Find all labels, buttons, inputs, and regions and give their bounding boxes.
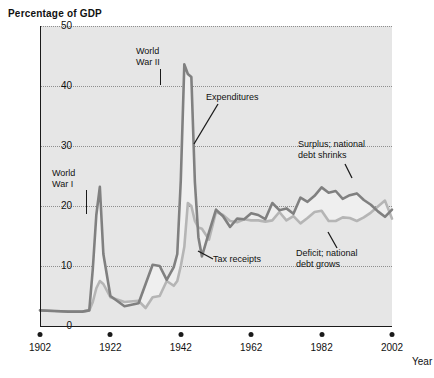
y-axis-line	[40, 26, 41, 326]
annotation-deficit: Deficit; national debt grows	[296, 248, 358, 269]
annotation-deficit-line2: debt grows	[296, 259, 358, 270]
annotation-surplus-line2: debt shrinks	[298, 150, 365, 161]
x-tick-dot-1902	[38, 332, 43, 337]
annotation-deficit-line1: Deficit; national	[296, 248, 358, 259]
annotation-expenditures: Expenditures	[206, 92, 259, 103]
annotation-world-war-1-line1: World	[52, 168, 75, 179]
annotation-tax-receipts-label: Tax receipts	[213, 254, 261, 265]
x-tick-label-1962: 1962	[240, 342, 262, 353]
x-tick-dot-1922	[108, 332, 113, 337]
annotation-world-war-2-line1: World	[136, 46, 160, 57]
x-axis-line	[40, 326, 392, 327]
annotation-tax-receipts: Tax receipts	[213, 254, 261, 265]
annotation-world-war-1-line2: War I	[52, 179, 75, 190]
x-tick-label-1902: 1902	[29, 342, 51, 353]
annotation-world-war-1: World War I	[52, 168, 75, 189]
x-tick-label-1922: 1922	[99, 342, 121, 353]
annotation-world-war-2: World War II	[136, 46, 160, 67]
x-tick-label-1982: 1982	[310, 342, 332, 353]
annotation-surplus: Surplus; national debt shrinks	[298, 139, 365, 160]
x-axis-label: Year	[412, 356, 432, 367]
annotation-world-war-2-leader	[160, 69, 161, 85]
annotation-world-war-2-line2: War II	[136, 57, 160, 68]
x-tick-dot-1942	[178, 332, 183, 337]
x-tick-dot-1982	[319, 332, 324, 337]
annotation-surplus-line1: Surplus; national	[298, 139, 365, 150]
data-series-svg	[40, 26, 392, 326]
chart-figure: Percentage of GDP 0 10 20 30 40 50 1902	[0, 0, 434, 378]
x-tick-label-1942: 1942	[170, 342, 192, 353]
plot-area: 0 10 20 30 40 50 1902 1922 1942 1962 198…	[40, 26, 392, 326]
x-tick-label-2002: 2002	[381, 342, 403, 353]
x-tick-dot-2002	[390, 332, 395, 337]
annotation-expenditures-label: Expenditures	[206, 92, 259, 103]
annotation-world-war-1-leader	[86, 190, 87, 214]
chart-title: Percentage of GDP	[8, 8, 102, 19]
x-tick-dot-1962	[249, 332, 254, 337]
